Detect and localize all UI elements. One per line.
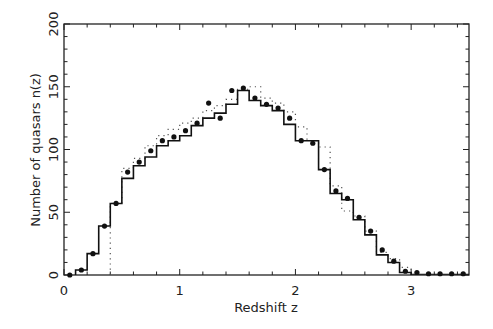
model-point [322, 167, 327, 172]
model-point [252, 95, 257, 100]
y-tick-label: 0 [46, 271, 61, 279]
model-point [79, 267, 84, 272]
model-point [171, 134, 176, 139]
model-point [148, 148, 153, 153]
model-point [125, 169, 130, 174]
model-point [345, 196, 350, 201]
model-point [403, 269, 408, 274]
y-tick-label: 150 [46, 74, 61, 99]
plot-frame [64, 24, 469, 275]
model-points [67, 85, 466, 277]
y-tick-label: 50 [46, 204, 61, 221]
model-point [449, 271, 454, 276]
observed-histogram-step-line [76, 91, 469, 275]
model-point [160, 138, 165, 143]
redshift-histogram-chart: 0123050100150200 Redshift z Number of qu… [0, 0, 493, 329]
model-point [275, 105, 280, 110]
x-tick-label: 3 [407, 283, 415, 298]
x-tick-label: 2 [291, 283, 299, 298]
axis-ticks [64, 24, 469, 275]
y-tick-label: 200 [46, 12, 61, 37]
model-point [264, 102, 269, 107]
model-point [333, 188, 338, 193]
model-point [356, 215, 361, 220]
model-point [287, 116, 292, 121]
model-point [113, 201, 118, 206]
model-point [391, 259, 396, 264]
model-point [310, 141, 315, 146]
model-point [380, 247, 385, 252]
model-point [183, 128, 188, 133]
model-point [102, 223, 107, 228]
model-point [461, 271, 466, 276]
model-point [67, 272, 72, 277]
x-axis-label: Redshift z [234, 300, 298, 315]
model-point [218, 116, 223, 121]
axis-tick-labels: 0123050100150200 [46, 12, 415, 298]
model-point [90, 251, 95, 256]
model-point [229, 88, 234, 93]
x-tick-label: 0 [60, 283, 68, 298]
model-point [137, 159, 142, 164]
model-point [414, 270, 419, 275]
x-tick-label: 1 [176, 283, 184, 298]
model-point [437, 271, 442, 276]
y-axis-label: Number of quasars n(z) [28, 73, 43, 227]
model-point [368, 228, 373, 233]
model-point [194, 121, 199, 126]
model-point [241, 85, 246, 90]
y-tick-label: 100 [46, 137, 61, 162]
model-point [426, 271, 431, 276]
model-point [299, 138, 304, 143]
model-point [206, 100, 211, 105]
alternate-model-dotted-line [110, 87, 411, 275]
